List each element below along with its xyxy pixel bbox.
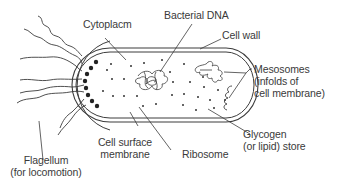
label-glycogen: Glycogen (or lipid) store — [243, 128, 306, 152]
flagella — [17, 16, 86, 135]
mesosome-bottom — [224, 86, 232, 110]
label-glycogen-line2: (or lipid) store — [243, 140, 306, 152]
label-flagellum: Flagellum (for locomotion) — [8, 154, 84, 178]
label-mesosomes-line2: (infolds of — [254, 75, 325, 87]
cell-membrane-outline — [76, 52, 254, 118]
label-cytoplasm: Cytoplacm — [83, 18, 132, 30]
ribosomes — [102, 59, 226, 111]
basal-bodies — [83, 60, 99, 108]
label-mesosomes: Mesosomes (infolds of cell membrane) — [254, 63, 325, 99]
label-cell-surface-line2: membrane — [95, 148, 155, 160]
label-cell-surface-membrane: Cell surface membrane — [95, 136, 155, 160]
label-flagellum-line1: Flagellum — [8, 154, 84, 166]
label-flagellum-line2: (for locomotion) — [8, 166, 84, 178]
label-ribosome: Ribosome — [182, 148, 228, 160]
label-bacterial-dna: Bacterial DNA — [164, 9, 229, 21]
mesosome-top — [195, 61, 222, 82]
label-cell-surface-line1: Cell surface — [95, 136, 155, 148]
cell-wall-outline — [72, 48, 258, 122]
label-mesosomes-line1: Mesosomes — [254, 63, 325, 75]
label-mesosomes-line3: cell membrane) — [254, 87, 325, 99]
bacterial-dna — [136, 70, 168, 90]
label-cell-wall: Cell wall — [222, 29, 260, 41]
label-glycogen-line1: Glycogen — [243, 128, 306, 140]
